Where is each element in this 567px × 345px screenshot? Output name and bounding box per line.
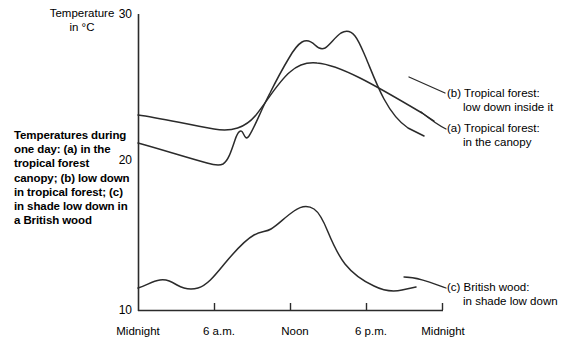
leader-line-b — [409, 77, 445, 93]
series-b-line — [138, 31, 424, 165]
series-label-a-line2: in the canopy — [447, 136, 540, 150]
series-label-a-line1: (a) Tropical forest: — [447, 122, 540, 134]
leader-line-c — [404, 277, 446, 288]
temperature-line-chart-figure: Temperature in °C Temperatures during on… — [0, 0, 567, 345]
series-label-c-line1: (c) British wood: — [447, 281, 529, 293]
series-label-b-line2: low down inside it — [447, 101, 553, 115]
series-c-line — [138, 207, 416, 291]
series-label-a: (a) Tropical forest: in the canopy — [447, 122, 540, 149]
series-label-b-line1: (b) Tropical forest: — [447, 87, 540, 99]
series-label-c-line2: in shade low down — [447, 295, 558, 309]
series-a-line — [138, 63, 434, 130]
series-label-c: (c) British wood: in shade low down — [447, 281, 558, 308]
series-label-b: (b) Tropical forest: low down inside it — [447, 87, 553, 114]
